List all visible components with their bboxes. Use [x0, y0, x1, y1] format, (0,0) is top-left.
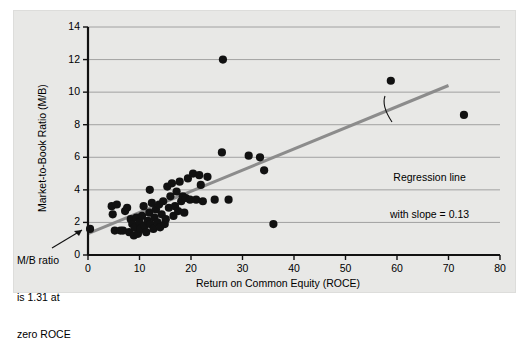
x-tick-label: 20 [171, 262, 211, 274]
data-point [203, 173, 211, 181]
x-tick-label: 60 [377, 262, 417, 274]
data-point [159, 197, 167, 205]
x-tick-label: 80 [480, 262, 520, 274]
y-tick-label: 14 [36, 20, 80, 32]
y-tick-label: 10 [36, 85, 80, 97]
x-tick-label: 50 [326, 262, 366, 274]
data-point [113, 200, 121, 208]
x-axis-title: Return on Common Equity (ROCE) [196, 277, 360, 289]
data-point [140, 202, 148, 210]
data-point [142, 228, 150, 236]
data-point [211, 196, 219, 204]
regression-annotation-line-1: Regression line [390, 171, 469, 183]
x-tick-label: 10 [120, 262, 160, 274]
data-point [199, 197, 207, 205]
data-point [195, 171, 203, 179]
data-point [123, 204, 131, 212]
y-tick-label: 12 [36, 53, 80, 65]
intercept-annotation-line-3: zero ROCE [17, 328, 71, 340]
intercept-annotation-line-2: is 1.31 at [17, 291, 71, 303]
data-point [219, 55, 227, 63]
regression-annotation: Regression line with slope = 0.13 [390, 146, 469, 245]
y-tick-label: 6 [36, 150, 80, 162]
data-point [197, 181, 205, 189]
x-tick-label: 0 [68, 262, 108, 274]
x-tick-label: 70 [429, 262, 469, 274]
y-tick-label: 2 [36, 215, 80, 227]
data-point [176, 178, 184, 186]
data-point [269, 220, 277, 228]
y-tick-label: 8 [36, 118, 80, 130]
x-tick-label: 40 [274, 262, 314, 274]
intercept-leader-arrowhead [74, 230, 82, 236]
intercept-annotation: M/B ratio is 1.31 at zero ROCE [17, 229, 71, 342]
intercept-annotation-line-1: M/B ratio [17, 254, 71, 266]
data-point [180, 209, 188, 217]
x-tick-label: 30 [223, 262, 263, 274]
data-point [218, 148, 226, 156]
data-point [162, 215, 170, 223]
data-point [260, 166, 268, 174]
data-point [109, 210, 117, 218]
data-point [256, 153, 264, 161]
data-point [245, 152, 253, 160]
annotation-leaders-group [52, 96, 392, 248]
data-point [224, 196, 232, 204]
data-point [146, 186, 154, 194]
data-point [168, 179, 176, 187]
data-point [387, 77, 395, 85]
data-point [460, 111, 468, 119]
y-tick-label: 4 [36, 183, 80, 195]
regression-annotation-line-2: with slope = 0.13 [390, 208, 469, 220]
